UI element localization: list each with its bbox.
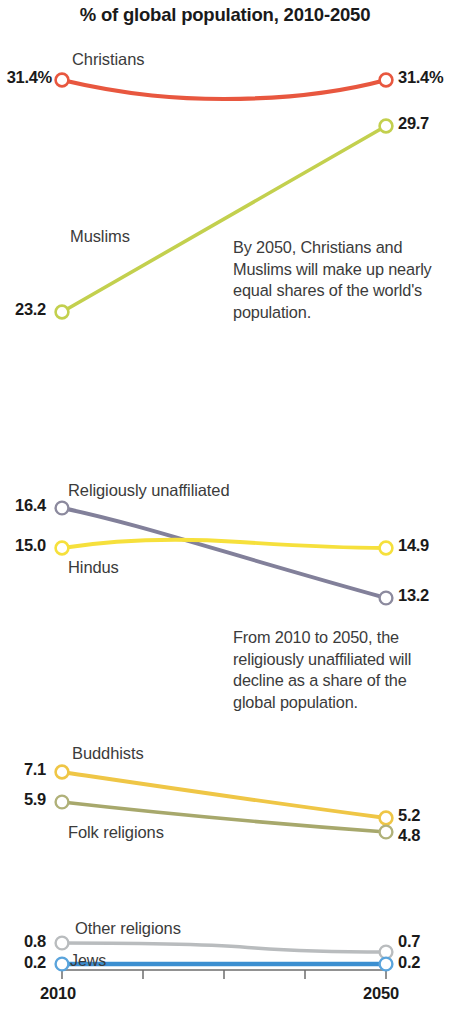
marker-hindus-2010 [56, 542, 69, 555]
axis-label-2010: 2010 [40, 984, 76, 1003]
series-label-hindus: Hindus [68, 558, 119, 577]
series-label-buddhists: Buddhists [72, 744, 144, 763]
value-label-muslims-left: 23.2 [0, 300, 46, 319]
marker-jews-2050 [380, 958, 393, 971]
marker-muslims-2050 [380, 120, 393, 133]
value-label-buddhists-right: 5.2 [398, 806, 420, 825]
value-label-jews-right: 0.2 [398, 953, 420, 972]
series-label-folk-religions: Folk religions [68, 823, 164, 842]
annotation-christians-muslims: By 2050, Christians and Muslims will mak… [233, 237, 448, 324]
series-label-religiously-unaffiliated: Religiously unaffiliated [68, 481, 229, 500]
marker-buddhists-2010 [56, 766, 69, 779]
value-label-jews-left: 0.2 [0, 953, 46, 972]
marker-christians-2050 [380, 74, 393, 87]
chart-container: % of global population, 2010-2050 [0, 0, 450, 1010]
line-christians [62, 80, 386, 99]
chart-plot-area [0, 0, 450, 1010]
line-buddhists [62, 772, 386, 818]
marker-buddhists-2050 [380, 812, 393, 825]
marker-unaffiliated-2050 [380, 592, 393, 605]
series-label-jews: Jews [70, 952, 106, 970]
marker-christians-2010 [56, 74, 69, 87]
value-label-christians-right: 31.4% [398, 68, 443, 87]
axis-label-2050: 2050 [363, 984, 399, 1003]
value-label-folk-right: 4.8 [398, 826, 420, 845]
line-hindus [62, 540, 386, 548]
value-label-unaffiliated-left: 16.4 [0, 496, 46, 515]
value-label-buddhists-left: 7.1 [0, 760, 46, 779]
series-label-christians: Christians [72, 50, 144, 69]
marker-folk-2050 [380, 826, 393, 839]
value-label-unaffiliated-right: 13.2 [398, 586, 429, 605]
marker-folk-2010 [56, 796, 69, 809]
marker-unaffiliated-2010 [56, 502, 69, 515]
value-label-other-left: 0.8 [0, 932, 46, 951]
series-label-other-religions: Other religions [75, 919, 181, 938]
line-religiously-unaffiliated [62, 508, 386, 598]
marker-jews-2010 [56, 958, 69, 971]
marker-other-2010 [56, 937, 69, 950]
value-label-hindus-left: 15.0 [0, 536, 46, 555]
value-label-muslims-right: 29.7 [398, 114, 429, 133]
annotation-unaffiliated-decline: From 2010 to 2050, the religiously unaff… [233, 627, 448, 714]
marker-hindus-2050 [380, 542, 393, 555]
value-label-christians-left: 31.4% [0, 68, 52, 87]
line-other-religions [62, 943, 386, 952]
value-label-folk-left: 5.9 [0, 790, 46, 809]
marker-muslims-2010 [56, 306, 69, 319]
series-label-muslims: Muslims [70, 227, 130, 246]
value-label-other-right: 0.7 [398, 932, 420, 951]
value-label-hindus-right: 14.9 [398, 536, 429, 555]
